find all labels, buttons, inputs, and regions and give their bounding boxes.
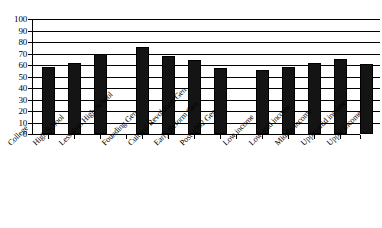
bar-chart-figure: 100 90 80 70 60 50 4 xyxy=(0,0,382,228)
x-axis-labels: College High School Less than High Schoo… xyxy=(0,0,382,94)
gridline xyxy=(32,100,380,101)
x-tick-mark xyxy=(360,135,361,139)
x-tick-mark xyxy=(220,135,221,139)
y-tick-label: 20 xyxy=(18,107,27,116)
y-tick-label: 30 xyxy=(18,95,27,104)
